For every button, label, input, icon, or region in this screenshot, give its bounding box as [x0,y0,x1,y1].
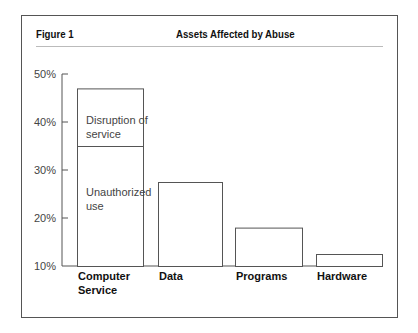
category-label: Data [159,270,184,282]
category-labels: ComputerServiceDataProgramsHardware [78,270,367,296]
bar-segment [236,228,303,266]
y-tick-label: 50% [34,68,56,80]
category-label: Hardware [317,270,367,282]
y-tick-label: 40% [34,116,56,128]
segment-label: Unauthorized [86,186,151,198]
y-tick-label: 30% [34,164,56,176]
segment-label: use [86,200,104,212]
segment-label: Disruption of [86,114,149,126]
bars: UnauthorizeduseDisruption ofservice [78,89,383,267]
segment-label: service [86,128,121,140]
y-tick-label: 10% [34,260,56,272]
category-label: Service [78,284,117,296]
bar-chart: 10%20%30%40%50% UnauthorizeduseDisruptio… [0,0,418,333]
category-label: Programs [236,270,287,282]
bar-segment [317,255,383,267]
category-label: Computer [78,270,131,282]
y-tick-label: 20% [34,212,56,224]
bar-segment [159,183,223,267]
